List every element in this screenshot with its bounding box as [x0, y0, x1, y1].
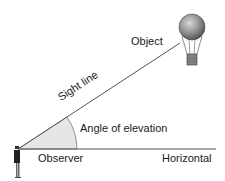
hot-air-balloon-icon	[179, 14, 205, 65]
horizontal-label: Horizontal	[162, 153, 212, 164]
observer-label: Observer	[38, 153, 83, 164]
observer-person-icon	[14, 146, 21, 178]
object-label: Object	[131, 36, 163, 47]
angle-of-elevation-label: Angle of elevation	[80, 123, 167, 134]
angle-sector	[18, 117, 77, 149]
